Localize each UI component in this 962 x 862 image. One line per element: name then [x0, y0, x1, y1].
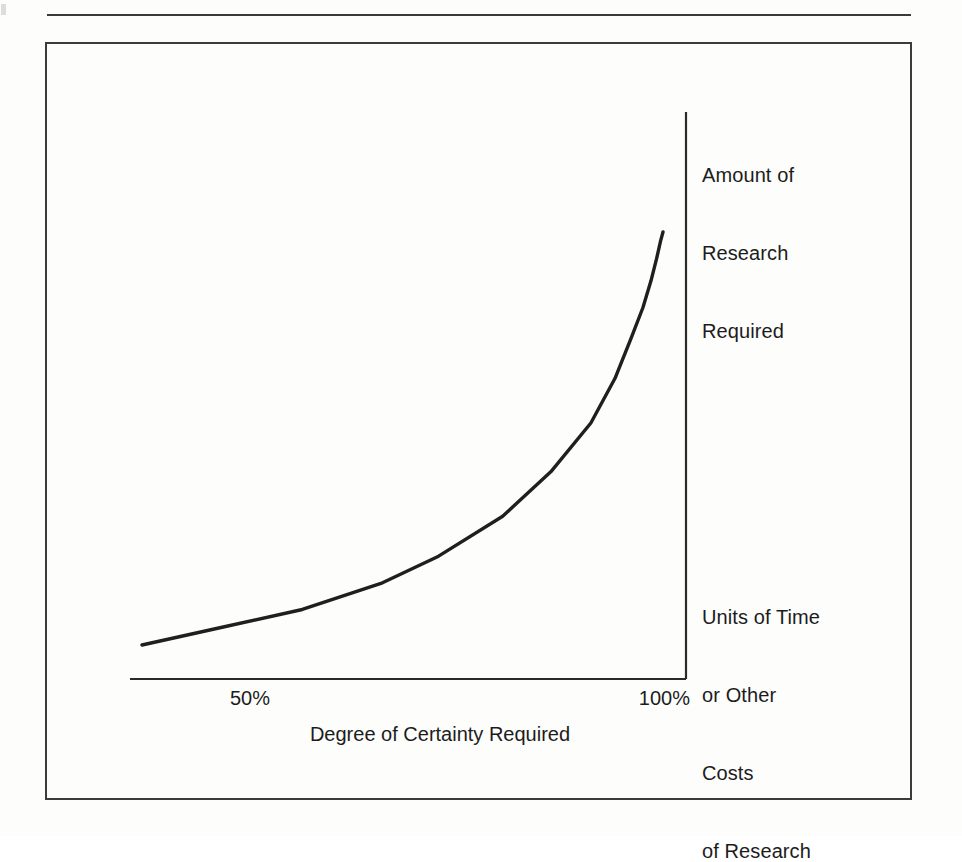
x-tick-label-100: 100% — [590, 686, 690, 710]
x-axis-title: Degree of Certainty Required — [130, 722, 750, 746]
y-axis-bottom-label-line4: of Research — [702, 838, 820, 862]
y-axis-bottom-label: Units of Time or Other Costs of Research — [702, 552, 820, 862]
top-horizontal-rule — [47, 14, 911, 16]
page-scan-artifact — [1, 4, 6, 15]
x-tick-label-50: 50% — [200, 686, 300, 710]
cost-curve-render — [142, 232, 663, 645]
y-axis-top-label: Amount of Research Required — [702, 110, 794, 396]
y-axis-top-label-line3: Required — [702, 318, 794, 344]
y-axis-bottom-label-line3: Costs — [702, 760, 820, 786]
y-axis-top-label-line2: Research — [702, 240, 794, 266]
y-axis-bottom-label-line1: Units of Time — [702, 604, 820, 630]
y-axis-bottom-label-line2: or Other — [702, 682, 820, 708]
y-axis-top-label-line1: Amount of — [702, 162, 794, 188]
